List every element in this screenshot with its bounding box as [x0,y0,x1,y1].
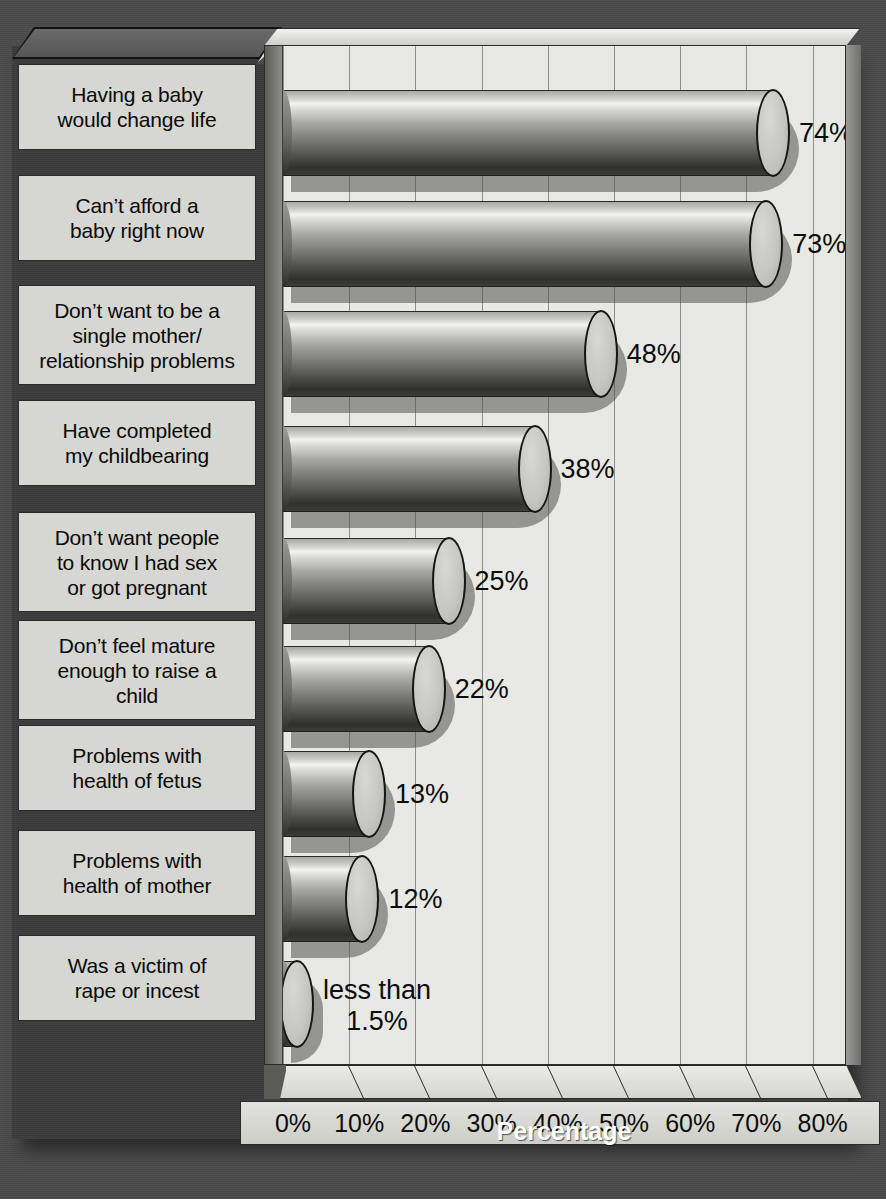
plot-wrapper: 74%73%48%38%25%22%13%12%less than1.5% 0%… [264,28,874,1088]
category-label-5: Don’t feel matureenough to raise achild [18,620,256,720]
category-label-1: Can’t afford ababy right now [18,175,256,261]
bar-1[interactable] [283,201,766,287]
category-label-column: Having a babywould change lifeCan’t affo… [18,58,260,1058]
category-label-6: Problems withhealth of fetus [18,725,256,811]
bar-5[interactable] [283,646,429,732]
category-label-4: Don’t want peopleto know I had sexor got… [18,512,256,612]
bar-6[interactable] [283,751,369,837]
bar-body-3 [283,426,535,512]
bar-end-cap-3 [518,425,552,513]
bar-3[interactable] [283,426,535,512]
bar-end-cap-1 [749,200,783,288]
bar-body-2 [283,311,601,397]
bar-end-cap-2 [584,310,618,398]
gridline-50% [614,46,615,1064]
category-label-8: Was a victim ofrape or incest [18,935,256,1021]
bar-end-cap-4 [432,537,466,625]
bar-7[interactable] [283,856,362,942]
plot-left-wall [265,46,283,1064]
category-label-2: Don’t want to be asingle mother/relation… [18,285,256,385]
bar-body-0 [283,90,773,176]
bar-value-label-0: 74% [799,118,846,149]
bar-4[interactable] [283,538,449,624]
bar-value-label-3: 38% [561,454,615,485]
bar-value-label-5: 22% [455,674,509,705]
bar-value-label-8: less than1.5% [323,975,431,1037]
bar-value-label-4: 25% [475,566,529,597]
bar-0[interactable] [283,90,773,176]
plot-area: 74%73%48%38%25%22%13%12%less than1.5% [264,45,846,1065]
bar-value-label-2: 48% [627,339,681,370]
bar-value-label-1: 73% [792,229,846,260]
bar-end-cap-6 [352,750,386,838]
category-label-3: Have completedmy childbearing [18,400,256,486]
bar-value-label-6: 13% [395,779,449,810]
x-axis-title: Percentage [264,1117,864,1146]
bar-end-cap-8 [280,960,314,1048]
plot-top-bevel [264,28,860,46]
x-axis-base [264,1065,862,1099]
bar-body-1 [283,201,766,287]
bar-value-label-7: 12% [388,884,442,915]
gridline-40% [548,46,549,1064]
bar-body-4 [283,538,449,624]
bar-end-cap-0 [756,89,790,177]
bar-body-5 [283,646,429,732]
bar-2[interactable] [283,311,601,397]
gridline-70% [746,46,747,1064]
bar-8[interactable] [283,961,297,1047]
gridline-30% [482,46,483,1064]
plot-right-face [845,45,861,1065]
chart-page: Having a babywould change lifeCan’t affo… [0,0,886,1199]
category-label-7: Problems withhealth of mother [18,830,256,916]
chart-3d-frame: Having a babywould change lifeCan’t affo… [6,12,878,1147]
category-label-0: Having a babywould change life [18,64,256,150]
gridline-60% [680,46,681,1064]
gridline-80% [813,46,814,1064]
bar-end-cap-5 [412,645,446,733]
chart-top-bevel [14,29,282,57]
